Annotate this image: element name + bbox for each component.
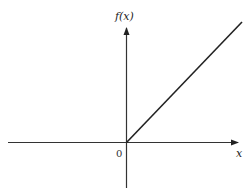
function-curve bbox=[127, 22, 243, 143]
y-axis-label: f(x) bbox=[115, 11, 134, 22]
function-graph bbox=[0, 0, 252, 195]
x-axis-label: x bbox=[236, 148, 242, 159]
origin-label: 0 bbox=[116, 149, 122, 159]
